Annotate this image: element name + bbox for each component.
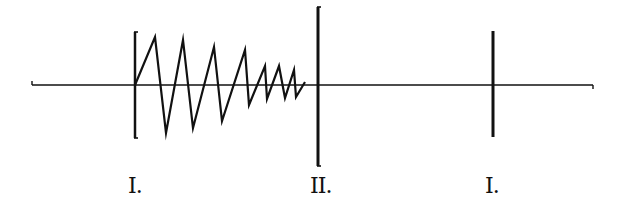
- label-marker-1-right: I.: [485, 175, 499, 197]
- label-marker-1-left: I.: [128, 175, 142, 197]
- diagram-canvas: [0, 0, 618, 208]
- horizontal-axis: [32, 81, 593, 89]
- oscillation-diagram: I. II. I.: [0, 0, 618, 208]
- label-marker-2-center: II.: [310, 175, 331, 197]
